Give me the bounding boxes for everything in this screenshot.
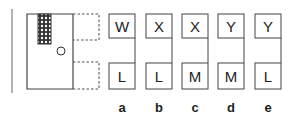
dashed-outline [73,14,99,89]
option-e[interactable]: Y L e [255,14,281,115]
circle-icon [57,47,65,55]
option-bottom-letter: M [225,68,238,85]
option-d[interactable]: Y M d [218,14,244,115]
option-a[interactable]: W L a [109,14,135,115]
puzzle-diagram: W L a X L b X M c Y M d Y L e [0,0,290,120]
option-top-letter: Y [226,18,236,35]
option-c[interactable]: X M c [182,14,208,115]
option-label: c [191,100,198,115]
option-label: d [227,100,235,115]
option-bottom-letter: L [264,68,272,85]
option-top-letter: X [154,18,164,35]
option-label: e [264,100,271,115]
option-top-letter: X [190,18,200,35]
option-b[interactable]: X L b [146,14,172,115]
option-top-letter: W [115,18,130,35]
hatched-rectangle [38,14,51,44]
question-figure [27,14,99,89]
option-label: b [155,100,163,115]
option-bottom-letter: L [155,68,163,85]
option-label: a [118,100,126,115]
option-bottom-letter: M [189,68,202,85]
option-top-letter: Y [263,18,273,35]
option-bottom-letter: L [118,68,126,85]
